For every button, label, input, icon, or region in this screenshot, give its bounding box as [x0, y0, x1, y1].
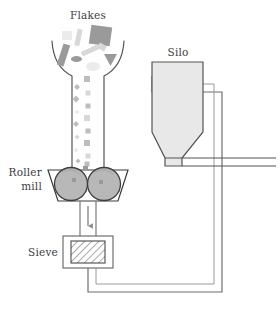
flake-group — [57, 25, 117, 71]
ground-particle — [86, 129, 91, 134]
flake — [74, 29, 82, 47]
flake — [62, 31, 72, 40]
ground-particle — [75, 135, 80, 140]
ground-particle — [84, 76, 90, 82]
label-sieve: Sieve — [28, 246, 58, 258]
ground-particle — [73, 121, 79, 127]
ground-particle — [75, 110, 80, 115]
ground-particle — [85, 162, 90, 167]
label-roller-mill-line2: mill — [21, 180, 42, 192]
ground-particle — [86, 154, 91, 159]
flake — [71, 56, 82, 62]
ground-particle — [86, 104, 91, 109]
particle-group — [73, 76, 91, 167]
roller-right — [88, 168, 121, 201]
ground-particle — [73, 96, 80, 103]
flake — [81, 44, 99, 56]
label-flakes: Flakes — [70, 9, 106, 21]
ground-particle — [76, 159, 81, 164]
silo — [152, 62, 203, 166]
mill-outlet-duct — [80, 201, 96, 236]
ground-particle — [84, 115, 90, 121]
ground-particle — [74, 84, 80, 90]
ground-particle — [74, 148, 79, 153]
sieve — [63, 236, 113, 268]
label-silo: Silo — [167, 46, 188, 58]
ground-particle — [84, 140, 90, 146]
label-roller-mill-line1: Roller — [9, 166, 43, 178]
roller-left — [55, 168, 88, 201]
flake — [104, 54, 117, 66]
process-flow-diagram: Flakes Roller mill Sieve Silo — [0, 0, 280, 314]
roller-mill — [48, 166, 128, 201]
sieve-screen — [71, 241, 105, 263]
ground-particle — [86, 91, 91, 96]
diagram-canvas: Flakes Roller mill Sieve Silo — [0, 0, 280, 314]
flake — [86, 62, 100, 71]
flake — [57, 43, 70, 66]
